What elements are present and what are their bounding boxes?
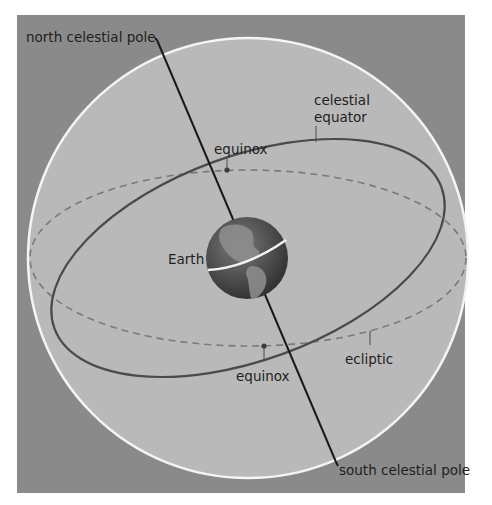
label-equinox-lower: equinox [236,368,290,384]
label-celestial-equator-line1: celestial [314,92,370,108]
label-earth: Earth [168,251,204,267]
label-north-celestial-pole: north celestial pole [26,29,156,45]
label-ecliptic: ecliptic [345,351,393,367]
label-south-celestial-pole: south celestial pole [339,462,470,478]
label-celestial-equator-line2: equator [314,109,367,125]
celestial-sphere-diagram: north celestial pole celestial equator e… [0,0,492,505]
label-equinox-upper: equinox [214,141,268,157]
